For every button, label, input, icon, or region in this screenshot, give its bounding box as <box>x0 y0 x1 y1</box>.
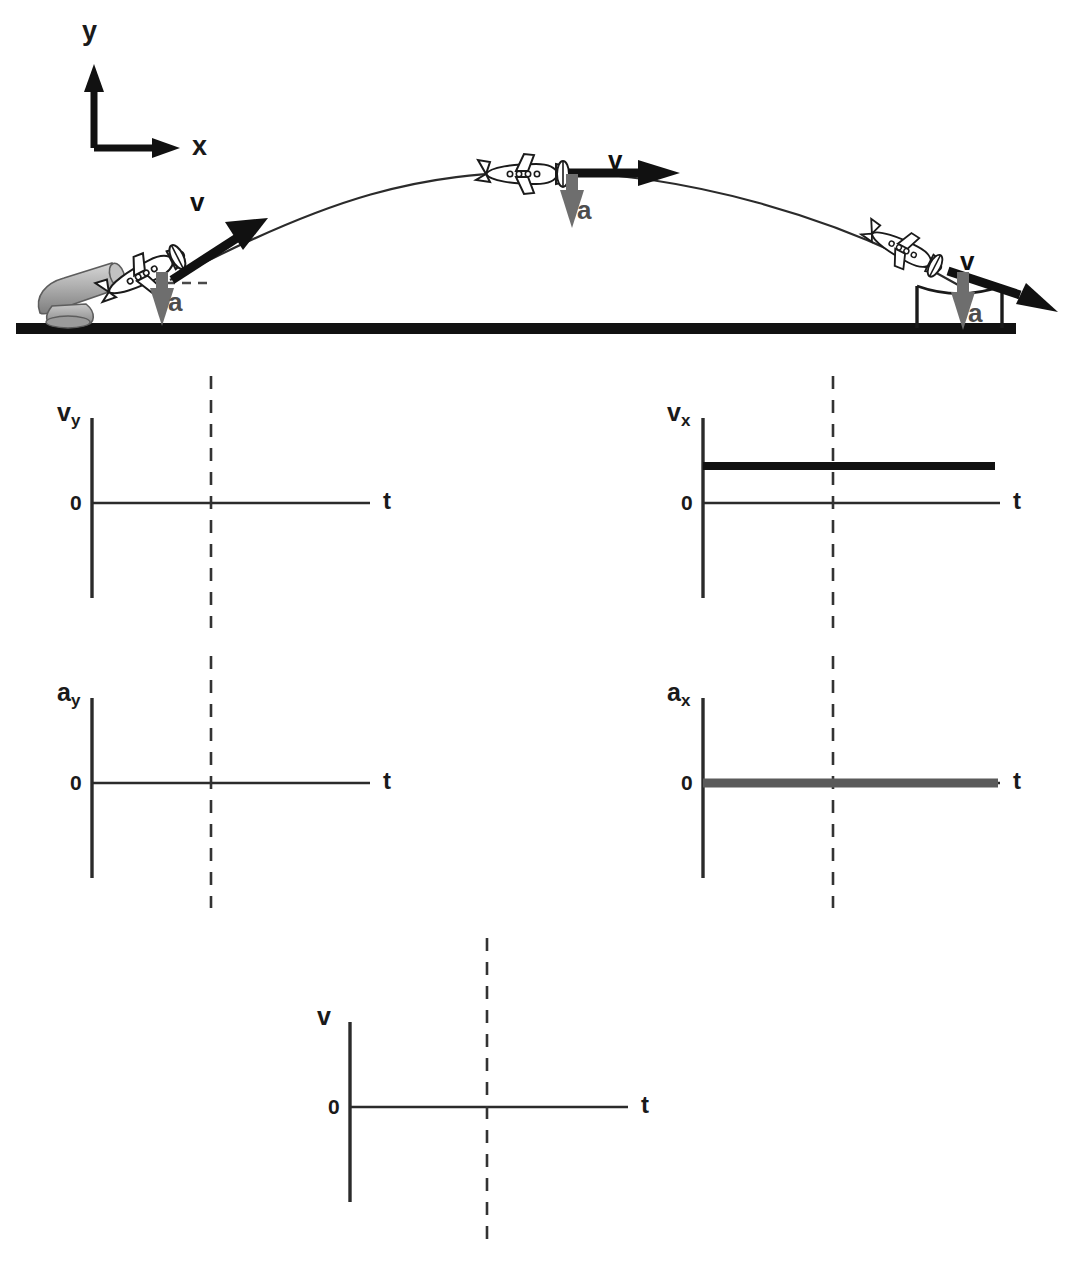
v-axis-label: v <box>317 1004 331 1029</box>
v-graph <box>350 938 628 1248</box>
vx-axis-label-sub: x <box>681 411 690 430</box>
vx-axis-label: vx <box>667 400 690 425</box>
figure-page: y x v a v a v a <box>0 0 1081 1265</box>
ay-axis-label-sub: y <box>71 691 80 710</box>
ax-zero-label: 0 <box>681 772 693 793</box>
ax-axis-label: ax <box>667 680 690 705</box>
vy-axis-label-sub: y <box>71 411 80 430</box>
vy-zero-label: 0 <box>70 492 82 513</box>
ax-axis-label-sub: x <box>681 691 690 710</box>
v-axis-label-main: v <box>317 1002 331 1030</box>
vy-axis-label: vy <box>57 400 80 425</box>
graphs-layer <box>0 0 1081 1265</box>
v-t-label: t <box>641 1093 649 1117</box>
vx-t-label: t <box>1013 489 1021 513</box>
ay-axis-label: ay <box>57 680 80 705</box>
vx-graph <box>703 376 1000 628</box>
ay-axis-label-main: a <box>57 678 71 706</box>
vy-graph <box>92 376 370 628</box>
vx-zero-label: 0 <box>681 492 693 513</box>
ax-graph <box>703 656 1000 908</box>
ax-t-label: t <box>1013 769 1021 793</box>
vx-axis-label-main: v <box>667 398 681 426</box>
vy-axis-label-main: v <box>57 398 71 426</box>
v-zero-label: 0 <box>328 1096 340 1117</box>
ax-axis-label-main: a <box>667 678 681 706</box>
ay-t-label: t <box>383 769 391 793</box>
ay-graph <box>92 656 370 908</box>
vy-t-label: t <box>383 489 391 513</box>
ay-zero-label: 0 <box>70 772 82 793</box>
